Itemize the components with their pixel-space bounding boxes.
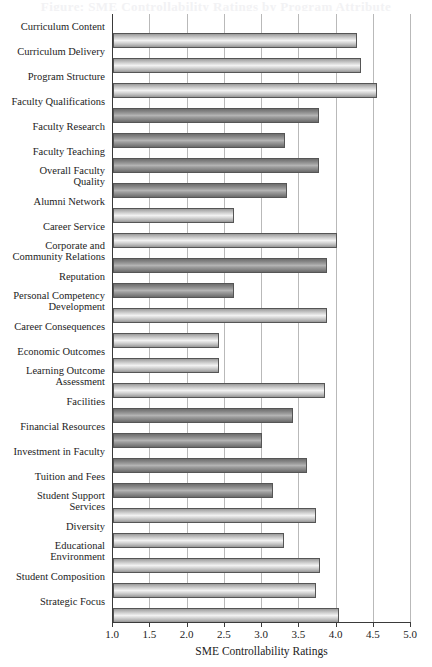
bar	[113, 383, 325, 398]
x-tick-label-5.0: 5.0	[390, 628, 430, 640]
bar	[113, 283, 234, 298]
category-label: Program Structure	[0, 71, 105, 83]
bar	[113, 458, 307, 473]
x-tick-3.0	[261, 622, 262, 627]
x-tick-label-4.0: 4.0	[316, 628, 356, 640]
bar	[113, 433, 262, 448]
x-tick-2.5	[224, 622, 225, 627]
category-label: Economic Outcomes	[0, 346, 105, 358]
bar	[113, 258, 327, 273]
bar	[113, 608, 339, 623]
x-tick-label-1.0: 1.0	[92, 628, 132, 640]
category-label: Corporate and Community Relations	[0, 240, 105, 263]
bar	[113, 108, 319, 123]
bar	[113, 183, 287, 198]
category-label: Student Composition	[0, 571, 105, 583]
category-label: Learning Outcome Assessment	[0, 365, 105, 388]
x-tick-1.0	[112, 622, 113, 627]
x-axis-title: SME Controllability Ratings	[112, 645, 411, 657]
bar	[113, 508, 316, 523]
bar	[113, 333, 219, 348]
category-label: Curriculum Content	[0, 21, 105, 33]
x-tick-label-3.0: 3.0	[241, 628, 281, 640]
x-tick-5.0	[410, 622, 411, 627]
x-tick-4.0	[336, 622, 337, 627]
category-label: Tuition and Fees	[0, 471, 105, 483]
bar	[113, 308, 327, 323]
bar	[113, 158, 319, 173]
y-axis-line	[112, 14, 113, 622]
bar	[113, 533, 284, 548]
x-tick-label-2.0: 2.0	[167, 628, 207, 640]
x-tick-label-2.5: 2.5	[204, 628, 244, 640]
bar	[113, 233, 337, 248]
bar	[113, 208, 234, 223]
category-label: Educational Environment	[0, 540, 105, 563]
category-label: Strategic Focus	[0, 596, 105, 608]
x-tick-4.5	[373, 622, 374, 627]
x-tick-label-4.5: 4.5	[353, 628, 393, 640]
bar	[113, 58, 361, 73]
category-label: Financial Resources	[0, 421, 105, 433]
plot-area	[112, 14, 410, 622]
x-tick-label-3.5: 3.5	[278, 628, 318, 640]
category-label: Career Consequences	[0, 321, 105, 333]
bar	[113, 558, 320, 573]
bar	[113, 83, 377, 98]
category-label: Alumni Network	[0, 196, 105, 208]
x-tick-3.5	[298, 622, 299, 627]
bar	[113, 358, 219, 373]
bar	[113, 483, 273, 498]
bar	[113, 33, 357, 48]
category-label: Faculty Qualifications	[0, 96, 105, 108]
category-label: Student Support Services	[0, 490, 105, 513]
bar	[113, 133, 285, 148]
category-label: Career Service	[0, 221, 105, 233]
bar	[113, 583, 316, 598]
category-label: Overall Faculty Quality	[0, 165, 105, 188]
category-label: Diversity	[0, 521, 105, 533]
x-tick-1.5	[149, 622, 150, 627]
category-label: Personal Competency Development	[0, 290, 105, 313]
gridline-4.0	[336, 14, 337, 622]
category-label: Curriculum Delivery	[0, 46, 105, 58]
gridline-5.0	[410, 14, 411, 622]
cut-off-title-remnant: Figure: SME Controllability Ratings by P…	[0, 0, 432, 11]
category-label: Reputation	[0, 271, 105, 283]
x-tick-2.0	[187, 622, 188, 627]
bar-chart: Figure: SME Controllability Ratings by P…	[0, 0, 432, 667]
bar	[113, 408, 293, 423]
gridline-4.5	[373, 14, 374, 622]
category-label: Facilities	[0, 396, 105, 408]
category-label: Faculty Teaching	[0, 146, 105, 158]
category-label: Faculty Research	[0, 121, 105, 133]
category-label: Investment in Faculty	[0, 446, 105, 458]
x-tick-label-1.5: 1.5	[129, 628, 169, 640]
